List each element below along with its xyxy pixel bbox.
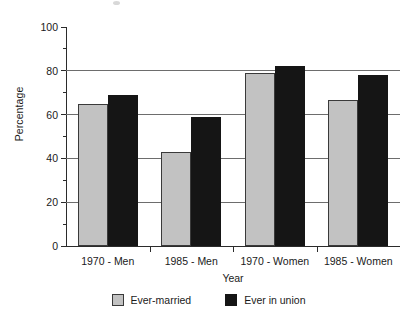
bar-chart-figure: Percentage 020406080100 1970 - Men1985 -… bbox=[0, 0, 417, 323]
legend-item: Ever in union bbox=[225, 294, 305, 306]
y-tick-major bbox=[61, 27, 66, 28]
scan-artifact bbox=[113, 1, 120, 5]
y-tick-minor bbox=[63, 136, 66, 137]
x-tick-label: 1970 - Women bbox=[240, 255, 309, 267]
y-tick-minor bbox=[63, 224, 66, 225]
y-axis-spine bbox=[66, 27, 67, 247]
y-tick-major bbox=[61, 70, 66, 71]
y-tick-label: 40 bbox=[46, 152, 58, 164]
legend-swatch bbox=[112, 294, 124, 306]
bar bbox=[245, 73, 275, 246]
legend-label: Ever-married bbox=[131, 294, 192, 306]
y-tick-label: 80 bbox=[46, 65, 58, 77]
y-tick-major bbox=[61, 202, 66, 203]
x-tick-label: 1970 - Men bbox=[81, 255, 134, 267]
legend-label: Ever in union bbox=[244, 294, 305, 306]
bar bbox=[358, 75, 388, 246]
legend-item: Ever-married bbox=[112, 294, 192, 306]
x-axis-title: Year bbox=[66, 272, 400, 284]
y-tick-label: 60 bbox=[46, 109, 58, 121]
plot-area: 020406080100 1970 - Men1985 - Men1970 - … bbox=[66, 27, 400, 246]
bar bbox=[108, 95, 138, 246]
y-tick-minor bbox=[63, 48, 66, 49]
bar bbox=[78, 104, 108, 246]
x-tick-label: 1985 - Women bbox=[324, 255, 393, 267]
y-tick-major bbox=[61, 158, 66, 159]
y-tick-major bbox=[61, 114, 66, 115]
x-tick-mark bbox=[317, 246, 318, 252]
y-tick-label: 100 bbox=[40, 21, 58, 33]
y-tick-major bbox=[61, 246, 66, 247]
bar bbox=[275, 66, 305, 246]
x-tick-mark bbox=[233, 246, 234, 252]
legend-swatch bbox=[225, 294, 237, 306]
y-tick-label: 20 bbox=[46, 196, 58, 208]
gridline bbox=[66, 70, 400, 71]
y-tick-minor bbox=[63, 180, 66, 181]
chart-legend: Ever-marriedEver in union bbox=[0, 294, 417, 306]
x-tick-mark bbox=[150, 246, 151, 252]
bar bbox=[328, 100, 358, 246]
y-tick-label: 0 bbox=[52, 240, 58, 252]
bar bbox=[191, 117, 221, 246]
y-axis-title: Percentage bbox=[13, 59, 25, 169]
x-tick-label: 1985 - Men bbox=[165, 255, 218, 267]
y-tick-minor bbox=[63, 92, 66, 93]
bar bbox=[161, 152, 191, 246]
